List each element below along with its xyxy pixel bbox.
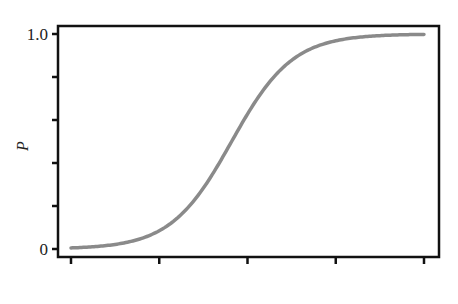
y-tick-label: 1.0 <box>27 25 48 44</box>
y-tick-label: 0 <box>40 240 49 259</box>
plot-frame <box>58 26 439 257</box>
y-axis-label: P <box>14 141 31 152</box>
sigmoid-curve <box>71 34 424 248</box>
sigmoid-chart: 01.0 P <box>0 0 458 304</box>
